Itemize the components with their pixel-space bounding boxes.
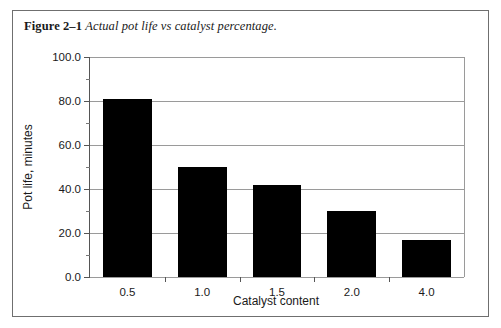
y-tick-label: 0.0 bbox=[65, 271, 81, 283]
plot-area: 0.020.040.060.080.0100.0 0.51.01.52.04.0 bbox=[89, 57, 464, 278]
x-tick-label: 1.5 bbox=[269, 286, 285, 298]
x-tick bbox=[240, 277, 241, 282]
y-tick-label: 40.0 bbox=[59, 183, 81, 195]
x-tick-label: 1.0 bbox=[194, 286, 210, 298]
y-tick-label: 80.0 bbox=[59, 95, 81, 107]
bar-series bbox=[90, 57, 464, 277]
figure-container: Figure 2–1 Actual pot life vs catalyst p… bbox=[0, 0, 501, 328]
bar bbox=[402, 240, 451, 277]
y-tick-label: 60.0 bbox=[59, 139, 81, 151]
bar bbox=[253, 185, 302, 277]
bar bbox=[103, 99, 152, 277]
y-tick-label: 20.0 bbox=[59, 227, 81, 239]
x-tick bbox=[314, 277, 315, 282]
y-tick-label: 100.0 bbox=[52, 51, 81, 63]
x-tick-label: 2.0 bbox=[344, 286, 360, 298]
x-tick bbox=[165, 277, 166, 282]
x-tick-label: 0.5 bbox=[119, 286, 135, 298]
plot-right-edge bbox=[464, 57, 465, 277]
bar bbox=[178, 167, 227, 277]
x-tick-label: 4.0 bbox=[419, 286, 435, 298]
chart-plot: Pot life, minutes Catalyst content 0.020… bbox=[0, 0, 501, 328]
y-axis-label: Pot life, minutes bbox=[21, 124, 35, 209]
bar bbox=[327, 211, 376, 277]
x-tick bbox=[389, 277, 390, 282]
